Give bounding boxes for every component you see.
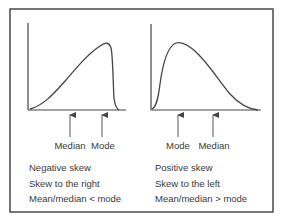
- right-caption-line-3: Mean/median > mode: [155, 193, 247, 204]
- positive-skew-curve: [152, 43, 258, 110]
- left-median-label: Median: [54, 140, 85, 151]
- left-caption-line-1: Negative skew: [29, 162, 91, 173]
- right-mode-label: Mode: [166, 140, 190, 151]
- left-caption-line-2: Skew to the right: [29, 178, 100, 189]
- left-caption-line-3: Mean/median < mode: [29, 193, 121, 204]
- right-median-label: Median: [198, 140, 229, 151]
- left-mode-label: Mode: [91, 140, 115, 151]
- right-caption-line-1: Positive skew: [155, 162, 213, 173]
- skewness-diagram: Median Mode Negative skew Skew to the ri…: [0, 0, 286, 221]
- left-plot: [28, 23, 126, 137]
- negative-skew-curve: [30, 43, 119, 110]
- right-caption-line-2: Skew to the left: [155, 178, 220, 189]
- right-plot: [151, 24, 261, 137]
